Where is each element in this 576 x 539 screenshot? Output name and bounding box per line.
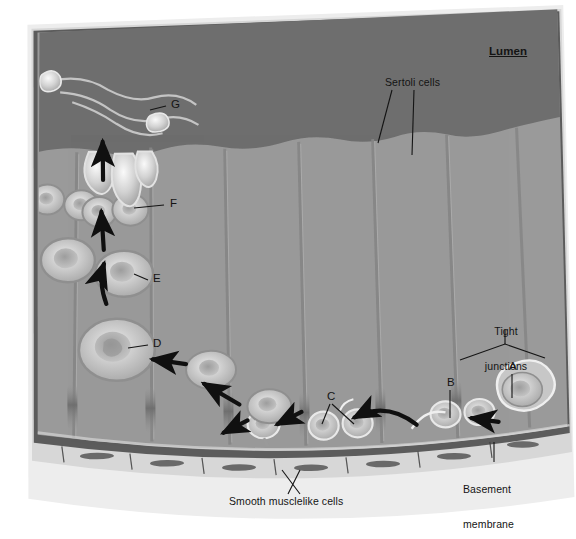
label-letter-a: A	[509, 361, 517, 373]
label-letter-b: B	[447, 377, 455, 389]
label-letter-d: D	[153, 338, 161, 350]
label-basement-membrane-line1: Basement	[463, 484, 514, 496]
label-tight-junctions: Tight junctions	[480, 303, 532, 395]
label-basement-membrane: Basement membrane	[463, 461, 514, 539]
label-sertoli-cells: Sertoli cells	[385, 77, 440, 89]
label-lumen: Lumen	[489, 46, 527, 58]
label-smooth-musclelike-cells: Smooth musclelike cells	[229, 496, 343, 508]
label-letter-g: G	[171, 99, 180, 111]
figure-canvas: Lumen Sertoli cells Tight junctions Base…	[0, 0, 576, 539]
tubule-illustration	[0, 0, 576, 539]
label-tight-junctions-line1: Tight	[480, 326, 532, 338]
label-letter-f: F	[170, 198, 177, 210]
label-letter-c: C	[327, 391, 335, 403]
label-letter-e: E	[153, 273, 161, 285]
label-basement-membrane-line2: membrane	[463, 519, 514, 531]
label-tight-junctions-line2: junctions	[480, 361, 532, 373]
